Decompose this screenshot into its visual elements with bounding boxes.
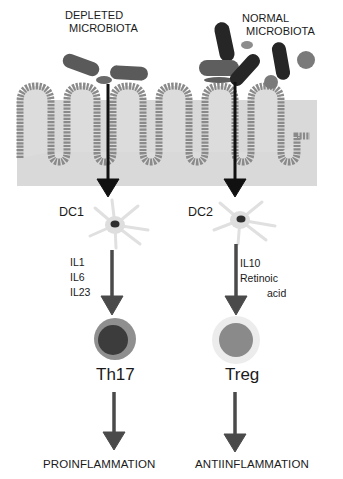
- cytokine-il6: IL6: [70, 270, 90, 285]
- treg-label: Treg: [225, 368, 259, 381]
- title-normal-line1: NORMAL: [241, 12, 315, 25]
- cytokine-il23: IL23: [70, 285, 90, 300]
- dc2-label: DC2: [188, 206, 213, 219]
- title-normal-line2: MICROBIOTA: [241, 25, 315, 38]
- outcome-antiinflammation: ANTIINFLAMMATION: [195, 458, 309, 471]
- depleted-bacteria: [61, 52, 149, 84]
- outcome-proinflammation: PROINFLAMMATION: [43, 458, 155, 471]
- cytokine-il1: IL1: [70, 255, 90, 270]
- dc1-cell: [90, 200, 148, 248]
- th17-cell: [94, 318, 136, 360]
- th17-label: Th17: [96, 368, 135, 381]
- title-depleted: DEPLETED MICROBIOTA: [65, 9, 138, 35]
- treg-cell: [212, 316, 260, 364]
- title-normal: NORMAL MICROBIOTA: [241, 12, 315, 38]
- dc-to-tcell-arrows: [101, 244, 247, 315]
- cytokine-retinoic: Retinoic: [240, 271, 286, 286]
- dc1-label: DC1: [59, 206, 84, 219]
- cytokines-right: IL10 Retinoic acid: [240, 256, 286, 301]
- cytokines-left: IL1 IL6 IL23: [70, 255, 90, 300]
- tcell-to-outcome-arrows: [103, 392, 246, 452]
- title-depleted-line2: MICROBIOTA: [65, 22, 138, 35]
- diagram-canvas: [0, 0, 343, 479]
- title-depleted-line1: DEPLETED: [65, 9, 138, 22]
- dc2-cell: [214, 202, 275, 244]
- cytokine-il10: IL10: [240, 256, 286, 271]
- cytokine-acid: acid: [240, 286, 286, 301]
